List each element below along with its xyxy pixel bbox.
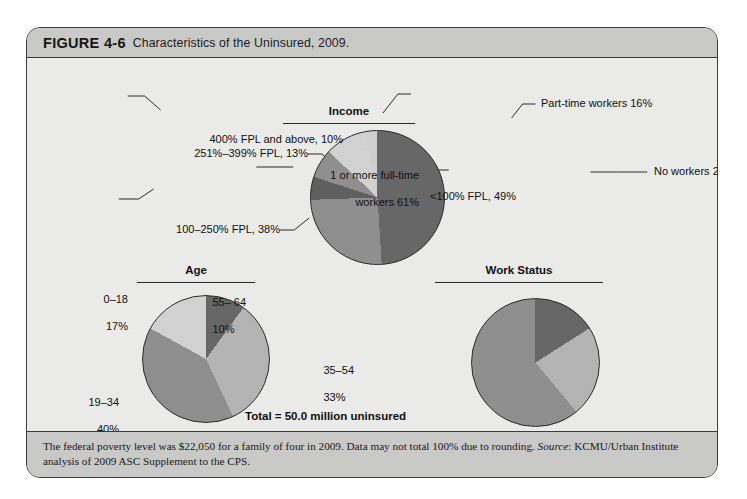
- figure-header: FIGURE 4-6 Characteristics of the Uninsu…: [27, 28, 717, 58]
- panel-title-income: Income: [304, 105, 394, 117]
- age-label-35-54-line2: 33%: [323, 391, 345, 403]
- income-label-under100: <100% FPL, 49%: [430, 190, 610, 203]
- income-label-100-250: 100–250% FPL, 38%: [127, 223, 280, 236]
- panel-rule-income: [283, 123, 415, 124]
- age-label-19-34-line1: 19–34: [88, 396, 119, 408]
- footnote-source-word: Source: [538, 440, 569, 452]
- age-label-55-64-line1: 55– 64: [212, 296, 246, 308]
- age-label-35-54-line1: 35–54: [323, 364, 354, 376]
- age-label-55-64: 55– 64 10%: [188, 283, 268, 350]
- footnote-text: The federal poverty level was $22,050 fo…: [43, 439, 701, 469]
- total-label: Total = 50.0 million uninsured: [245, 410, 406, 422]
- work-label-part-time: Part-time workers 16%: [541, 97, 718, 110]
- figure-caption: Characteristics of the Uninsured, 2009.: [133, 36, 349, 50]
- panel-rule-work: [435, 282, 603, 283]
- age-label-55-64-line2: 10%: [212, 323, 234, 335]
- age-label-0-18-line1: 0–18: [104, 293, 128, 305]
- age-label-0-18-line2: 17%: [106, 320, 128, 332]
- figure-footnote: The federal poverty level was $22,050 fo…: [27, 431, 717, 477]
- panel-title-work: Work Status: [464, 264, 574, 276]
- work-label-full-time-line1: 1 or more full-time: [330, 169, 419, 181]
- income-label-400plus: 400% FPL and above, 10%: [143, 133, 343, 146]
- figure-root: FIGURE 4-6 Characteristics of the Uninsu…: [0, 0, 747, 499]
- figure-plot-area: Income 400% FPL and above, 10% 251%–399%…: [27, 58, 717, 433]
- work-label-full-time-line2: workers 61%: [355, 196, 419, 208]
- work-label-no-workers: No workers 23%: [654, 165, 718, 178]
- age-label-0-18: 0–18 17%: [50, 280, 128, 347]
- pie-work-status: [471, 298, 600, 427]
- age-label-35-54: 35–54 33%: [299, 351, 369, 418]
- footnote-main: The federal poverty level was $22,050 fo…: [43, 440, 538, 452]
- panel-title-age: Age: [166, 264, 226, 276]
- work-label-full-time: 1 or more full-time workers 61%: [259, 156, 419, 223]
- figure-frame: FIGURE 4-6 Characteristics of the Uninsu…: [26, 27, 718, 478]
- figure-number: FIGURE 4-6: [43, 35, 126, 51]
